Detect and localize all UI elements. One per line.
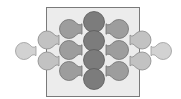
center-circle-node xyxy=(84,50,105,71)
funnel-node-diagram xyxy=(0,0,181,99)
center-circle-node xyxy=(84,69,105,90)
center-circle-node xyxy=(84,31,105,52)
center-circle-node xyxy=(84,12,105,33)
diagram-canvas xyxy=(0,0,181,99)
